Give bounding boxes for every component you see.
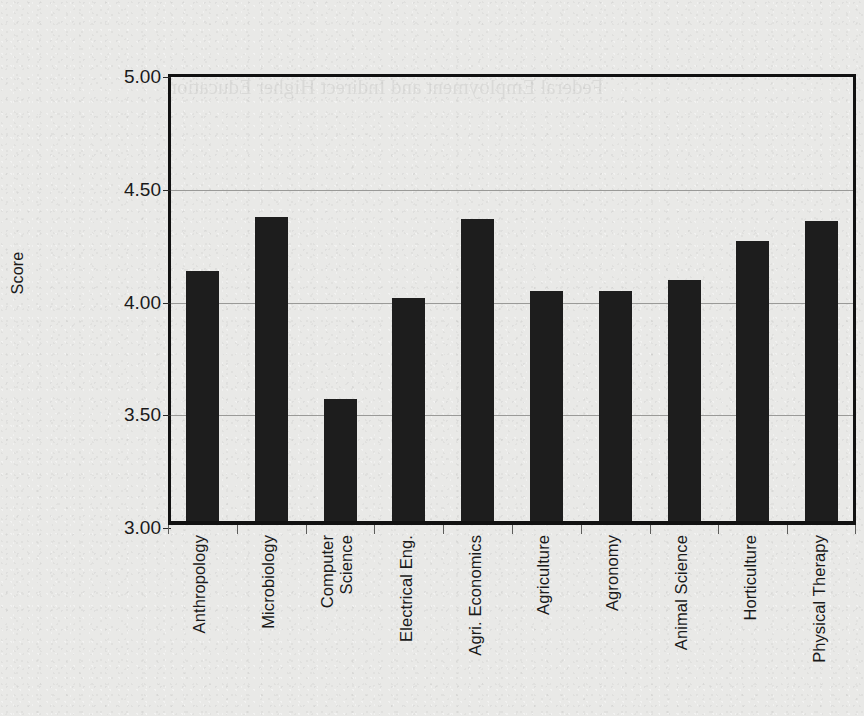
x-axis-labels: AnthropologyMicrobiologyComputer Science… (168, 535, 856, 715)
y-axis-tick-mark (163, 77, 171, 78)
bar (599, 291, 632, 521)
x-axis-tick-mark (855, 525, 856, 534)
bar (668, 280, 701, 521)
bar (461, 219, 494, 521)
bar (324, 399, 357, 521)
y-axis-tick-mark (163, 303, 171, 304)
y-axis-tick-label: 5.00 (89, 66, 171, 88)
bar (736, 241, 769, 521)
bar (530, 291, 563, 521)
y-axis-title: Score (9, 213, 27, 333)
x-axis-tick-mark (650, 525, 651, 534)
x-axis-label: Physical Therapy (809, 535, 828, 705)
x-axis-label: Electrical Eng. (396, 535, 415, 705)
x-axis-label: Microbiology (259, 535, 278, 705)
x-axis-tick-mark (237, 525, 238, 534)
y-axis-tick-label: 4.00 (89, 292, 171, 314)
x-axis-label: Agriculture (534, 535, 553, 705)
x-axis-tick-mark (718, 525, 719, 534)
bar-chart-figure: Score 3.003.504.004.505.00 AnthropologyM… (40, 16, 824, 700)
y-axis-tick-label: 4.50 (89, 179, 171, 201)
x-axis-label: Agri. Economics (465, 535, 484, 705)
bar (186, 271, 219, 521)
x-axis-tick-mark (512, 525, 513, 534)
x-axis-tick-mark (443, 525, 444, 534)
x-axis-tick-mark (787, 525, 788, 534)
y-axis-tick-mark (163, 415, 171, 416)
bar (255, 217, 288, 521)
x-axis-tick-mark (374, 525, 375, 534)
x-axis-tick-marks (168, 525, 856, 535)
x-axis-tick-mark (306, 525, 307, 534)
x-axis-label: Agronomy (603, 535, 622, 705)
bar (805, 221, 838, 521)
x-axis-tick-mark (168, 525, 169, 534)
x-axis-label: Animal Science (672, 535, 691, 705)
y-axis-tick-mark (163, 190, 171, 191)
bar (392, 298, 425, 521)
bars-layer (171, 77, 853, 521)
x-axis-tick-mark (581, 525, 582, 534)
x-axis-label: Computer Science (318, 535, 356, 705)
plot-area: 3.003.504.004.505.00 (168, 74, 856, 525)
y-axis-tick-label: 3.00 (89, 517, 171, 539)
y-axis-tick-label: 3.50 (89, 404, 171, 426)
x-axis-label: Horticulture (740, 535, 759, 705)
x-axis-label: Anthropology (190, 535, 209, 705)
